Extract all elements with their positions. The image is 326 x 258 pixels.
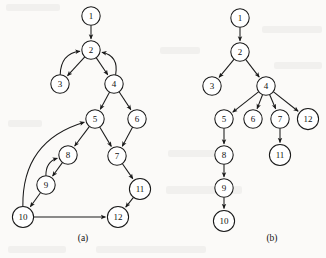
edge-9-to-10 bbox=[30, 192, 40, 206]
node-8[interactable]: 8 bbox=[215, 146, 233, 164]
node-circle-1 bbox=[82, 7, 100, 25]
node-6[interactable]: 6 bbox=[128, 110, 146, 128]
node-3[interactable]: 3 bbox=[51, 75, 69, 93]
figure-root: 123456789101112123456712811910 (a)(b) bbox=[0, 0, 326, 258]
edge-5-to-7 bbox=[100, 127, 112, 146]
edge-7-to-11 bbox=[122, 164, 133, 179]
edge-2-to-4 bbox=[96, 58, 108, 75]
edge-9-to-8 bbox=[46, 158, 57, 176]
node-11[interactable]: 11 bbox=[129, 178, 150, 199]
node-5[interactable]: 5 bbox=[215, 110, 233, 128]
edge-4-to-12 bbox=[273, 92, 298, 112]
graph-figure-canvas: 123456789101112123456712811910 (a)(b) bbox=[0, 0, 326, 258]
node-4[interactable]: 4 bbox=[105, 75, 123, 93]
node-circle-4 bbox=[257, 77, 275, 95]
edge-5-to-8 bbox=[75, 126, 90, 146]
node-circle-3 bbox=[203, 77, 221, 95]
node-6[interactable]: 6 bbox=[244, 110, 262, 128]
node-circle-12 bbox=[107, 206, 128, 227]
node-10[interactable]: 10 bbox=[12, 206, 33, 227]
node-circle-7 bbox=[108, 147, 126, 165]
node-circle-9 bbox=[37, 176, 55, 194]
edge-11-to-12 bbox=[126, 197, 134, 207]
node-circle-10 bbox=[12, 206, 33, 227]
node-1[interactable]: 1 bbox=[82, 7, 100, 25]
node-11[interactable]: 11 bbox=[269, 144, 290, 165]
node-circle-8 bbox=[59, 146, 77, 164]
node-circle-5 bbox=[215, 110, 233, 128]
node-circle-11 bbox=[269, 144, 290, 165]
node-circle-5 bbox=[86, 110, 104, 128]
node-circle-4 bbox=[105, 75, 123, 93]
node-circle-11 bbox=[129, 178, 150, 199]
node-9[interactable]: 9 bbox=[215, 179, 233, 197]
node-10[interactable]: 10 bbox=[213, 210, 234, 231]
nodes-layer: 123456789101112123456712811910 bbox=[12, 7, 318, 232]
edge-2-to-4 bbox=[246, 59, 260, 77]
node-9[interactable]: 9 bbox=[37, 176, 55, 194]
node-circle-12 bbox=[297, 108, 318, 129]
node-circle-2 bbox=[82, 41, 100, 59]
node-circle-3 bbox=[51, 75, 69, 93]
node-circle-9 bbox=[215, 179, 233, 197]
caption-panel-a: (a) bbox=[78, 233, 89, 244]
edge-4-to-5 bbox=[233, 92, 259, 112]
edge-4-to-6 bbox=[257, 95, 263, 109]
edge-4-to-2 bbox=[102, 52, 116, 75]
node-7[interactable]: 7 bbox=[108, 147, 126, 165]
node-4[interactable]: 4 bbox=[257, 77, 275, 95]
node-circle-6 bbox=[244, 110, 262, 128]
edge-8-to-9 bbox=[53, 162, 63, 176]
edge-4-to-7 bbox=[270, 94, 276, 108]
edge-4-to-5 bbox=[100, 92, 109, 109]
node-3[interactable]: 3 bbox=[203, 77, 221, 95]
node-circle-10 bbox=[213, 210, 234, 231]
node-2[interactable]: 2 bbox=[82, 41, 100, 59]
edge-2-to-3 bbox=[68, 57, 85, 76]
node-circle-2 bbox=[231, 43, 249, 61]
edge-6-to-7 bbox=[122, 127, 132, 146]
node-8[interactable]: 8 bbox=[59, 146, 77, 164]
edge-4-to-6 bbox=[119, 92, 131, 110]
node-2[interactable]: 2 bbox=[231, 43, 249, 61]
node-1[interactable]: 1 bbox=[231, 9, 249, 27]
node-12[interactable]: 12 bbox=[107, 206, 128, 227]
edge-3-to-2 bbox=[60, 51, 80, 75]
node-12[interactable]: 12 bbox=[297, 108, 318, 129]
node-circle-8 bbox=[215, 146, 233, 164]
node-circle-7 bbox=[271, 110, 289, 128]
captions-layer: (a)(b) bbox=[78, 233, 278, 244]
edge-2-to-3 bbox=[219, 59, 234, 77]
edge-10-to-5 bbox=[23, 122, 84, 206]
node-5[interactable]: 5 bbox=[86, 110, 104, 128]
node-circle-6 bbox=[128, 110, 146, 128]
node-7[interactable]: 7 bbox=[271, 110, 289, 128]
node-circle-1 bbox=[231, 9, 249, 27]
caption-panel-b: (b) bbox=[266, 233, 277, 244]
